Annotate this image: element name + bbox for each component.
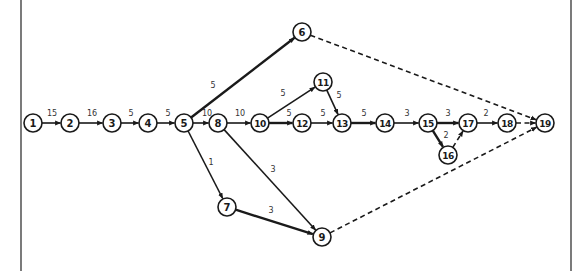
duration-label-5-6: 5	[210, 81, 215, 90]
event-node-14: 14	[376, 114, 394, 132]
event-node-number: 9	[319, 232, 326, 243]
duration-label-11-13: 5	[336, 91, 341, 100]
duration-label-3-4: 5	[128, 109, 133, 118]
event-node-4: 4	[139, 114, 157, 132]
event-node-15: 15	[419, 114, 437, 132]
event-node-number: 18	[501, 119, 513, 129]
edge-labels-layer: 15165551011033555553322	[47, 81, 489, 215]
duration-label-1-2: 15	[47, 109, 57, 118]
event-node-6: 6	[293, 23, 311, 41]
dummy-activity-arrow-6-19	[310, 35, 536, 120]
duration-label-15-17: 3	[445, 109, 450, 118]
event-node-number: 14	[379, 119, 391, 129]
event-node-3: 3	[103, 114, 121, 132]
duration-label-2-3: 16	[87, 109, 97, 118]
duration-label-5-7: 1	[208, 158, 213, 167]
event-node-9: 9	[313, 228, 331, 246]
duration-label-7-9: 3	[268, 206, 273, 215]
event-node-number: 11	[317, 78, 329, 88]
event-node-number: 4	[145, 118, 152, 129]
duration-label-10-11: 5	[280, 89, 285, 98]
event-node-number: 17	[462, 119, 474, 129]
event-node-number: 2	[67, 118, 74, 129]
duration-label-15-16: 2	[443, 131, 448, 140]
duration-label-10-12: 5	[286, 109, 291, 118]
activity-arrow-5-6	[191, 38, 294, 118]
event-node-number: 15	[422, 119, 434, 129]
duration-label-13-14: 5	[361, 109, 366, 118]
dummy-activity-arrow-9-19	[330, 127, 537, 233]
event-node-number: 1	[30, 118, 37, 129]
duration-label-4-5: 5	[165, 109, 170, 118]
event-node-number: 16	[442, 151, 454, 161]
duration-label-12-13: 5	[320, 109, 325, 118]
event-node-19: 19	[536, 114, 554, 132]
event-node-12: 12	[293, 114, 311, 132]
event-node-13: 13	[333, 114, 351, 132]
activity-arrow-15-16	[433, 131, 443, 147]
event-node-number: 6	[299, 27, 306, 38]
event-node-number: 10	[254, 119, 266, 129]
event-node-18: 18	[498, 114, 516, 132]
duration-label-8-9: 3	[270, 165, 275, 174]
event-node-17: 17	[459, 114, 477, 132]
event-node-10: 10	[251, 114, 269, 132]
event-node-number: 3	[109, 118, 116, 129]
network-diagram: 15165551011033555553322 1234567891011121…	[0, 0, 578, 271]
event-node-number: 8	[215, 118, 222, 129]
duration-label-17-18: 2	[483, 109, 488, 118]
event-node-number: 5	[181, 118, 188, 129]
event-node-number: 19	[539, 119, 551, 129]
duration-label-8-10: 10	[235, 109, 245, 118]
event-node-8: 8	[209, 114, 227, 132]
event-node-5: 5	[175, 114, 193, 132]
event-node-2: 2	[61, 114, 79, 132]
event-node-1: 1	[24, 114, 42, 132]
event-node-number: 12	[296, 119, 308, 129]
duration-label-14-15: 3	[404, 109, 409, 118]
dummy-activity-arrow-16-17	[453, 131, 463, 147]
edges-layer	[42, 35, 537, 234]
nodes-layer: 12345678910111213141516171819	[24, 23, 554, 246]
event-node-11: 11	[314, 73, 332, 91]
event-node-16: 16	[439, 146, 457, 164]
event-node-7: 7	[218, 198, 236, 216]
event-node-number: 13	[336, 119, 348, 129]
event-node-number: 7	[224, 202, 231, 213]
activity-arrow-5-7	[188, 131, 223, 199]
